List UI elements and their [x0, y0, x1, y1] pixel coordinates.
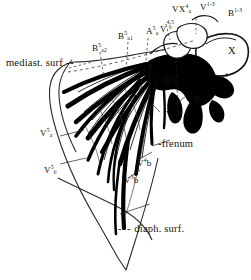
- label-B5b: B5b: [164, 76, 176, 85]
- label-B5a2: B5a2: [92, 44, 107, 53]
- label-V5b-right: V5b: [166, 110, 179, 119]
- label-V5b-left: V5b: [44, 166, 57, 175]
- label-X-hilum: X: [228, 46, 236, 57]
- label-B5a1: B5a1: [118, 32, 133, 41]
- label-A5a: A5a: [146, 27, 158, 36]
- label-V3b: V3b: [124, 176, 138, 185]
- label-B1-3: B1-3: [228, 9, 242, 18]
- diaphragmatic-surface-label: --- diaph. surf.: [118, 224, 184, 235]
- label-V4b: V4b: [137, 159, 151, 168]
- frenum-label: -frenum: [158, 139, 193, 150]
- label-B6: B6: [219, 74, 228, 83]
- label-V4-5b: V4,5b: [160, 20, 174, 34]
- label-VX4a: VX4a: [172, 5, 191, 14]
- label-B7-10: B7-10: [194, 95, 211, 104]
- anatomical-figure: mediast. surf.-- --- diaph. surf. -frenu…: [0, 0, 251, 280]
- figure-artwork: [0, 0, 251, 280]
- label-V5a: V5a: [40, 129, 52, 138]
- mediastinal-surface-label: mediast. surf.--: [6, 58, 75, 69]
- label-V1-3: V1-3: [200, 3, 215, 12]
- pulmonary-vein-branches: [64, 64, 165, 234]
